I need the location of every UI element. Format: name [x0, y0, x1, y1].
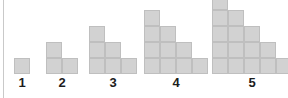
figure-label-4: 4	[144, 76, 208, 90]
unit-square	[176, 58, 192, 74]
square-stack	[46, 0, 78, 74]
unit-square	[89, 58, 105, 74]
unit-square	[46, 58, 62, 74]
unit-square	[228, 42, 244, 58]
figure-group-2: 2	[46, 0, 78, 98]
unit-square	[276, 58, 288, 74]
figure-group-5: 5	[212, 0, 288, 98]
unit-square	[144, 10, 160, 26]
unit-square	[105, 42, 121, 58]
unit-square	[144, 42, 160, 58]
unit-square	[260, 42, 276, 58]
unit-square	[212, 0, 228, 10]
unit-square	[228, 10, 244, 26]
square-stack	[144, 0, 208, 74]
unit-square	[62, 58, 78, 74]
figure-group-1: 1	[14, 0, 30, 98]
unit-square	[212, 42, 228, 58]
unit-square	[89, 26, 105, 42]
unit-square	[160, 26, 176, 42]
unit-square	[160, 58, 176, 74]
staircase-sequence-figure: 12345	[0, 0, 288, 98]
unit-square	[212, 26, 228, 42]
unit-square	[144, 58, 160, 74]
unit-square	[212, 58, 228, 74]
left-border-rule	[3, 0, 4, 98]
unit-square	[144, 26, 160, 42]
unit-square	[228, 26, 244, 42]
figure-label-1: 1	[14, 76, 30, 90]
unit-square	[176, 42, 192, 58]
square-stack	[89, 0, 137, 74]
figure-label-2: 2	[46, 76, 78, 90]
figure-group-4: 4	[144, 0, 208, 98]
unit-square	[14, 58, 30, 74]
figure-group-3: 3	[89, 0, 137, 98]
unit-square	[121, 58, 137, 74]
unit-square	[160, 42, 176, 58]
unit-square	[260, 58, 276, 74]
unit-square	[105, 58, 121, 74]
figure-label-5: 5	[212, 76, 288, 90]
unit-square	[192, 58, 208, 74]
unit-square	[244, 42, 260, 58]
unit-square	[212, 10, 228, 26]
square-stack	[212, 0, 288, 74]
unit-square	[228, 58, 244, 74]
unit-square	[244, 26, 260, 42]
unit-square	[89, 42, 105, 58]
figure-label-3: 3	[89, 76, 137, 90]
square-stack	[14, 0, 30, 74]
unit-square	[46, 42, 62, 58]
unit-square	[244, 58, 260, 74]
